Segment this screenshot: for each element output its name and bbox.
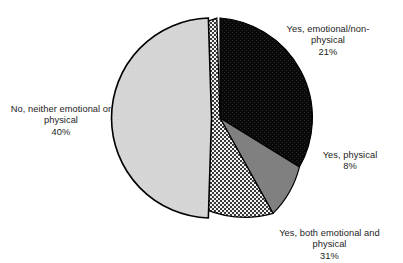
pie-label-neither: No, neither emotional or physical 40% xyxy=(2,92,120,150)
pie-label-both-line2: physical xyxy=(313,239,347,249)
pie-value-neither: 40% xyxy=(2,127,120,139)
pie-label-both: Yes, both emotional and physical 31% xyxy=(258,216,401,263)
pie-slice-neither-group xyxy=(112,18,212,218)
pie-label-neither-line2: physical xyxy=(44,115,78,125)
pie-slice-neither[interactable] xyxy=(112,18,212,218)
pie-label-physical: Yes, physical 8% xyxy=(300,138,400,184)
pie-label-emotional-line2: physical xyxy=(311,35,345,45)
pie-value-emotional: 21% xyxy=(258,47,398,59)
pie-label-emotional-line1: Yes, emotional/non- xyxy=(287,24,370,34)
pie-label-emotional: Yes, emotional/non- physical 21% xyxy=(258,12,398,70)
pie-label-neither-line1: No, neither emotional or xyxy=(11,104,111,114)
pie-label-physical-line1: Yes, physical xyxy=(323,150,378,160)
pie-label-both-line1: Yes, both emotional and xyxy=(279,228,380,238)
pie-value-both: 31% xyxy=(258,251,401,263)
pie-value-physical: 8% xyxy=(300,161,400,173)
